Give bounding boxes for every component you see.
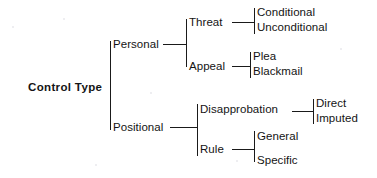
bracket-rule: [254, 131, 255, 162]
scan-speck: [340, 48, 342, 50]
connector-positional: [170, 127, 198, 128]
bracket-appeal: [250, 52, 251, 78]
bracket-positional: [197, 104, 198, 156]
bracket-personal: [186, 19, 187, 67]
connector-disapprobation: [292, 111, 313, 112]
node-control-type: Control Type: [28, 81, 102, 93]
node-imputed: Imputed: [316, 112, 358, 124]
control-type-tree-diagram: Control Type Personal Positional Threat …: [0, 0, 377, 178]
node-positional: Positional: [113, 121, 163, 133]
scan-speck: [236, 160, 238, 162]
bracket-disapprobation: [313, 99, 314, 124]
node-plea: Plea: [253, 50, 276, 62]
connector-personal: [163, 44, 187, 45]
node-rule: Rule: [200, 143, 224, 155]
scan-speck: [63, 18, 65, 20]
node-general: General: [257, 130, 298, 142]
bracket-threat: [254, 8, 255, 34]
connector-appeal: [232, 66, 251, 67]
node-conditional: Conditional: [257, 6, 315, 18]
node-disapprobation: Disapprobation: [200, 103, 278, 115]
node-specific: Specific: [257, 154, 298, 166]
scan-speck: [95, 164, 97, 166]
node-direct: Direct: [316, 97, 346, 109]
connector-rule: [232, 149, 254, 150]
scan-speck: [150, 92, 152, 94]
bracket-root: [110, 41, 111, 130]
node-blackmail: Blackmail: [253, 65, 303, 77]
node-unconditional: Unconditional: [257, 21, 327, 33]
node-personal: Personal: [113, 38, 159, 50]
node-appeal: Appeal: [189, 60, 225, 72]
node-threat: Threat: [189, 16, 223, 28]
connector-threat: [232, 22, 254, 23]
scan-speck: [12, 26, 14, 28]
